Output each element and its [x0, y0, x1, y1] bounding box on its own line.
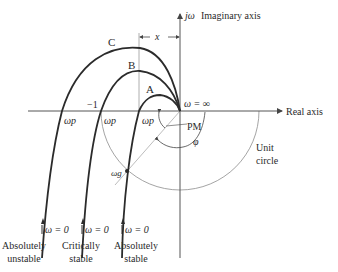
- curve-b-label: B: [128, 59, 135, 71]
- imaginary-axis-label: Imaginary axis: [201, 10, 261, 21]
- omega-infinity-label: ω = ∞: [184, 98, 210, 109]
- pm-leader: [166, 124, 187, 126]
- real-axis-label: Real axis: [286, 106, 323, 117]
- omega-p-c-label: ωp: [64, 115, 76, 126]
- curve-a-label: A: [146, 83, 154, 95]
- omega-zero-a-label: ω = 0: [125, 224, 149, 235]
- caption-b-line1: Critically: [62, 240, 100, 251]
- pm-label: PM: [187, 121, 202, 132]
- unit-circle-label-line1: Unit: [256, 142, 274, 153]
- imaginary-symbol: jω: [183, 10, 195, 21]
- unit-circle-label-line2: circle: [256, 155, 279, 166]
- caption-b-line2: stable: [69, 253, 93, 264]
- caption-c-line1: Absolutely: [2, 240, 46, 251]
- curve-c-label: C: [108, 36, 115, 48]
- nyquist-diagram: x C B A −1 ωp ωp ωp ω = ∞ PM φ ωg Unit c…: [0, 0, 338, 272]
- x-dimension-label: x: [154, 31, 160, 42]
- phi-label: φ: [193, 136, 199, 147]
- omega-g-point: [125, 169, 129, 173]
- minus-one-label: −1: [87, 99, 98, 110]
- omega-zero-c-label: ω = 0: [45, 224, 69, 235]
- omega-p-b-label: ωp: [104, 115, 116, 126]
- caption-a-line1: Absolutely: [114, 240, 158, 251]
- caption-c-line2: unstable: [7, 253, 41, 264]
- omega-zero-b-label: ω = 0: [85, 224, 109, 235]
- omega-p-a-label: ωp: [142, 115, 154, 126]
- caption-a-line2: stable: [124, 253, 148, 264]
- pm-arc: [159, 112, 165, 128]
- omega-g-label: ωg: [111, 168, 122, 178]
